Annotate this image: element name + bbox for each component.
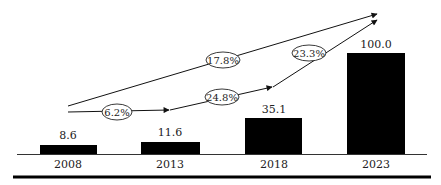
svg-text:6.2%: 6.2% xyxy=(104,107,129,118)
svg-text:17.8%: 17.8% xyxy=(207,55,239,66)
bar-2008 xyxy=(40,145,97,154)
category-label-2018: 2018 xyxy=(260,158,288,171)
growth-bar-chart: 8.6 11.6 35.1 100.0 2008 2013 2018 2023 … xyxy=(0,0,441,185)
bar-2018 xyxy=(245,118,302,154)
category-label-2013: 2013 xyxy=(156,158,184,171)
growth-label-2008-2013: 6.2% xyxy=(102,104,132,120)
value-label-2013: 11.6 xyxy=(158,126,183,139)
category-label-2008: 2008 xyxy=(54,158,82,171)
growth-label-overall: 17.8% xyxy=(206,52,240,68)
growth-label-2018-2023: 23.3% xyxy=(292,45,326,61)
bar-2023 xyxy=(347,53,405,154)
svg-text:24.8%: 24.8% xyxy=(206,92,238,103)
value-label-2008: 8.6 xyxy=(59,129,77,142)
bar-2013 xyxy=(141,142,200,154)
svg-text:23.3%: 23.3% xyxy=(293,48,325,59)
value-label-2023: 100.0 xyxy=(360,38,392,51)
growth-label-2013-2018: 24.8% xyxy=(205,89,239,105)
category-label-2023: 2023 xyxy=(362,158,390,171)
value-label-2018: 35.1 xyxy=(262,103,287,116)
